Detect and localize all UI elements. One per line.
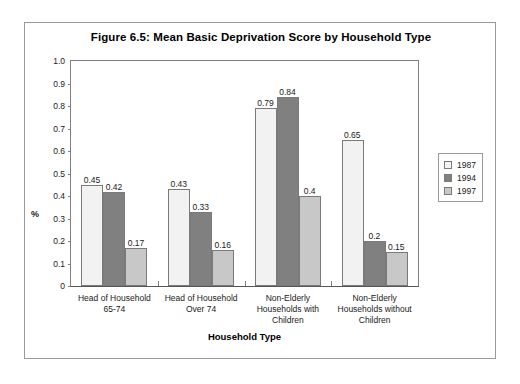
bar-value-label: 0.43 bbox=[171, 179, 188, 189]
plot-area: 1.00.90.80.70.60.50.40.30.20.100.450.420… bbox=[70, 60, 419, 287]
category-label-line: Children bbox=[245, 315, 332, 326]
bar-1994-2[interactable]: 0.33 bbox=[190, 212, 212, 286]
bar-value-label: 0.65 bbox=[344, 130, 361, 140]
legend-item-1994[interactable]: 1994 bbox=[444, 171, 476, 184]
bar-1994-4[interactable]: 0.2 bbox=[364, 241, 386, 286]
legend-swatch-icon bbox=[444, 187, 452, 195]
x-axis-title: Household Type bbox=[70, 331, 419, 342]
bar-1994-1[interactable]: 0.42 bbox=[103, 192, 125, 287]
x-axis-category-label: Head of Household65-74 bbox=[71, 293, 158, 315]
bar-1997-1[interactable]: 0.17 bbox=[125, 248, 147, 286]
bar-1997-4[interactable]: 0.15 bbox=[386, 252, 408, 286]
bar-value-label: 0.45 bbox=[84, 175, 101, 185]
bar-group: 0.650.20.15Non-ElderlyHouseholds without… bbox=[331, 61, 418, 286]
bar-1987-4[interactable]: 0.65 bbox=[342, 140, 364, 286]
bar-group: 0.430.330.16Head of HouseholdOver 74 bbox=[158, 61, 245, 286]
category-label-line: Head of Household bbox=[71, 293, 158, 304]
bar-1994-3[interactable]: 0.84 bbox=[277, 97, 299, 286]
bar-1987-2[interactable]: 0.43 bbox=[168, 189, 190, 286]
y-axis-tick-label: 1.0 bbox=[53, 56, 71, 66]
bar-value-label: 0.17 bbox=[128, 238, 145, 248]
category-label-line: Over 74 bbox=[158, 304, 245, 315]
legend-item-1987[interactable]: 1987 bbox=[444, 158, 476, 171]
legend-label: 1994 bbox=[457, 173, 476, 183]
bar-value-label: 0.79 bbox=[257, 98, 274, 108]
x-axis-category-label: Head of HouseholdOver 74 bbox=[158, 293, 245, 315]
bar-1987-3[interactable]: 0.79 bbox=[255, 108, 277, 286]
category-label-line: Non-Elderly bbox=[331, 293, 418, 304]
chart-legend: 198719941997 bbox=[438, 153, 483, 202]
category-label-line: Households without bbox=[331, 304, 418, 315]
bar-value-label: 0.16 bbox=[215, 240, 232, 250]
legend-swatch-icon bbox=[444, 161, 452, 169]
chart-frame: Figure 6.5: Mean Basic Deprivation Score… bbox=[24, 22, 496, 359]
x-axis-tick-mark bbox=[331, 281, 332, 286]
legend-label: 1997 bbox=[457, 186, 476, 196]
bar-1987-1[interactable]: 0.45 bbox=[81, 185, 103, 286]
category-label-line: Children bbox=[331, 315, 418, 326]
bar-value-label: 0.15 bbox=[388, 242, 405, 252]
legend-label: 1987 bbox=[457, 160, 476, 170]
bar-value-label: 0.2 bbox=[368, 231, 380, 241]
x-axis-category-label: Non-ElderlyHouseholds withoutChildren bbox=[331, 293, 418, 326]
y-axis-tick-mark bbox=[68, 286, 71, 287]
x-axis-tick-mark bbox=[245, 281, 246, 286]
bar-group: 0.450.420.17Head of Household65-74 bbox=[71, 61, 158, 286]
chart-title: Figure 6.5: Mean Basic Deprivation Score… bbox=[25, 31, 497, 43]
bar-value-label: 0.42 bbox=[106, 182, 123, 192]
category-label-line: Non-Elderly bbox=[245, 293, 332, 304]
y-axis-title: % bbox=[31, 209, 39, 219]
bar-value-label: 0.33 bbox=[193, 202, 210, 212]
category-label-line: Households with bbox=[245, 304, 332, 315]
category-label-line: Head of Household bbox=[158, 293, 245, 304]
bar-value-label: 0.4 bbox=[304, 186, 316, 196]
legend-swatch-icon bbox=[444, 174, 452, 182]
category-label-line: 65-74 bbox=[71, 304, 158, 315]
bar-1997-3[interactable]: 0.4 bbox=[299, 196, 321, 286]
x-axis-category-label: Non-ElderlyHouseholds withChildren bbox=[245, 293, 332, 326]
legend-item-1997[interactable]: 1997 bbox=[444, 184, 476, 197]
bar-value-label: 0.84 bbox=[279, 87, 296, 97]
bar-1997-2[interactable]: 0.16 bbox=[212, 250, 234, 286]
x-axis-tick-mark bbox=[158, 281, 159, 286]
bar-group: 0.790.840.4Non-ElderlyHouseholds withChi… bbox=[245, 61, 332, 286]
